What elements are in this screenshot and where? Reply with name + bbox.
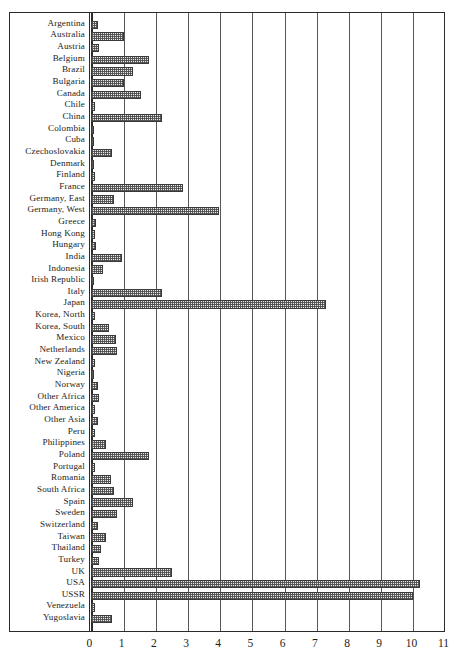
x-tick-label: 4 — [206, 637, 230, 649]
bar — [91, 102, 94, 110]
category-label: Turkey — [58, 554, 85, 566]
gridline-6 — [285, 13, 286, 631]
category-label: Italy — [68, 286, 85, 298]
category-label: Korea, North — [35, 309, 85, 321]
bar — [91, 114, 162, 122]
bar — [91, 207, 218, 215]
bar — [91, 557, 99, 565]
bar — [91, 300, 326, 308]
category-label: Argentina — [47, 18, 85, 30]
category-label: Spain — [64, 496, 85, 508]
bar — [91, 184, 183, 192]
category-label: Canada — [57, 88, 85, 100]
category-label: Germany, East — [30, 193, 85, 205]
category-label: Venezuela — [46, 600, 85, 612]
bar — [91, 452, 149, 460]
bar — [91, 347, 117, 355]
category-label-column: ArgentinaAustraliaAustriaBelgiumBrazilBu… — [10, 13, 89, 631]
gridline-3 — [188, 13, 189, 631]
bar — [91, 137, 94, 145]
bar — [91, 580, 419, 588]
bar — [91, 312, 94, 320]
category-label: France — [59, 181, 85, 193]
bar — [91, 160, 94, 168]
category-label: Peru — [68, 426, 85, 438]
bar — [91, 359, 94, 367]
category-label: Taiwan — [57, 531, 85, 543]
bar — [91, 91, 141, 99]
category-label: Nigeria — [57, 367, 85, 379]
category-label: USSR — [62, 589, 85, 601]
x-tick-label: 9 — [367, 637, 391, 649]
category-label: Irish Republic — [31, 274, 85, 286]
bar — [91, 254, 122, 262]
bar — [91, 56, 149, 64]
bar — [91, 510, 117, 518]
bar — [91, 429, 94, 437]
category-label: South Africa — [37, 484, 85, 496]
category-label: China — [63, 111, 85, 123]
x-tick-label: 5 — [238, 637, 262, 649]
bar — [91, 277, 94, 285]
x-tick-label: 3 — [174, 637, 198, 649]
bar — [91, 603, 94, 611]
gridline-1 — [124, 13, 125, 631]
x-tick-label: 11 — [432, 637, 454, 649]
bar — [91, 440, 105, 448]
bar — [91, 21, 97, 29]
category-label: India — [66, 251, 85, 263]
category-label: Philippines — [42, 437, 85, 449]
category-label: Portugal — [53, 461, 85, 473]
category-label: Other America — [29, 402, 85, 414]
bar — [91, 335, 115, 343]
bar — [91, 230, 94, 238]
bar — [91, 568, 172, 576]
bar — [91, 382, 97, 390]
category-label: Hong Kong — [41, 228, 85, 240]
gridline-5 — [252, 13, 253, 631]
bar — [91, 67, 133, 75]
bar-chart: ArgentinaAustraliaAustriaBelgiumBrazilBu… — [0, 0, 454, 672]
category-label: Indonesia — [48, 263, 85, 275]
category-label: Colombia — [48, 123, 85, 135]
category-label: Brazil — [62, 64, 85, 76]
category-label: Greece — [58, 216, 85, 228]
bar — [91, 545, 101, 553]
gridline-9 — [381, 13, 382, 631]
category-label: Hungary — [52, 239, 85, 251]
gridline-4 — [220, 13, 221, 631]
gridline-8 — [349, 13, 350, 631]
bar — [91, 172, 94, 180]
category-label: USA — [66, 577, 85, 589]
category-label: UK — [72, 566, 85, 578]
bar — [91, 195, 114, 203]
bar — [91, 370, 94, 378]
x-tick-label: 6 — [271, 637, 295, 649]
category-label: Sweden — [55, 507, 85, 519]
category-label: Austria — [57, 41, 85, 53]
bar — [91, 592, 413, 600]
chart-frame: ArgentinaAustraliaAustriaBelgiumBrazilBu… — [9, 12, 445, 632]
bar — [91, 405, 94, 413]
bar — [91, 219, 96, 227]
bar — [91, 417, 97, 425]
bar — [91, 289, 162, 297]
category-label: New Zealand — [35, 356, 85, 368]
x-tick-label: 2 — [142, 637, 166, 649]
category-label: Norway — [55, 379, 85, 391]
bar — [91, 615, 112, 623]
x-tick-label: 7 — [303, 637, 327, 649]
category-label: Bulgaria — [52, 76, 85, 88]
gridline-2 — [156, 13, 157, 631]
bar — [91, 44, 99, 52]
category-label: Romania — [51, 472, 85, 484]
bar — [91, 32, 123, 40]
bar — [91, 79, 123, 87]
category-label: Mexico — [56, 332, 85, 344]
category-label: Denmark — [50, 158, 85, 170]
category-label: Netherlands — [39, 344, 85, 356]
category-label: Korea, South — [35, 321, 85, 333]
gridline-10 — [413, 13, 414, 631]
bar — [91, 498, 133, 506]
bar — [91, 149, 112, 157]
